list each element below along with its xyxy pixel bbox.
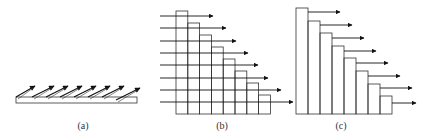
column	[380, 96, 392, 114]
panel-b-label: (b)	[207, 120, 237, 131]
arrow-icon	[46, 86, 68, 97]
column	[211, 47, 223, 114]
column	[320, 33, 332, 114]
panel-a-label: (a)	[68, 120, 98, 131]
column	[188, 23, 200, 114]
column	[308, 21, 320, 114]
arrow-icon	[74, 86, 96, 97]
column	[368, 84, 380, 114]
column	[247, 83, 259, 114]
column	[356, 71, 368, 114]
diagram-figure	[0, 0, 430, 139]
panel-c-label: (c)	[326, 120, 356, 131]
panel-c-staircase-outflow	[296, 8, 416, 114]
arrow-shadow	[118, 90, 138, 102]
column	[235, 71, 247, 114]
slab	[16, 97, 137, 103]
arrow-icon	[32, 86, 54, 97]
panel-b-staircase-crossed	[160, 11, 293, 114]
arrow-icon	[16, 86, 35, 97]
column	[332, 46, 344, 114]
column	[176, 11, 188, 114]
column	[259, 95, 271, 114]
panel-a-slab-diagram	[16, 86, 140, 103]
column	[296, 8, 308, 114]
column	[344, 58, 356, 114]
arrow-icon	[102, 86, 124, 97]
column	[223, 59, 235, 114]
arrow-icon	[88, 86, 110, 97]
arrow-icon	[60, 86, 82, 97]
